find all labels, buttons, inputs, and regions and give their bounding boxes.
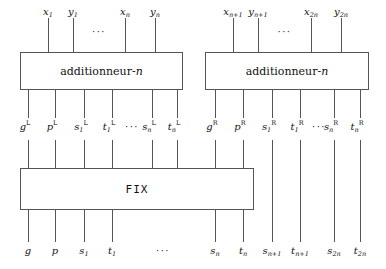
mid-wire-lower-left-1 [55,140,56,168]
circuit-diagram: x1y1xnyn···xn+1yn+1x2ny2n···additionneur… [0,0,386,269]
mid-label-left-3: t1L [103,121,116,132]
mid-wire-upper-right-1 [243,90,244,118]
adder-box-left-label: additionneur-n [60,65,143,78]
bypass-wire-right-3 [300,140,301,242]
input-label-left-2: xn [120,6,130,17]
mid-wire-upper-left-0 [28,90,29,118]
mid-wire-upper-right-4 [334,90,335,118]
input-label-right-3: y2n [334,6,348,17]
output-wire-3 [112,210,113,242]
output-wire-4 [215,210,216,242]
output-label-5: tn [239,245,247,256]
mid-wire-lower-right-1 [243,140,244,168]
mid-label-left-4: snL [142,121,156,132]
input-wire-left-1 [73,18,74,52]
input-label-left-3: yn [150,6,160,17]
ellipsis-top-left: ··· [92,26,106,37]
output-label-9: t2n [354,245,366,256]
input-wire-left-3 [155,18,156,52]
mid-wire-upper-left-1 [55,90,56,118]
input-label-right-2: x2n [304,6,318,17]
input-wire-right-0 [233,18,234,52]
output-wire-2 [84,210,85,242]
input-label-right-1: yn+1 [248,6,267,17]
output-wire-0 [28,210,29,242]
mid-wire-upper-left-4 [152,90,153,118]
input-wire-right-2 [311,18,312,52]
input-wire-left-2 [125,18,126,52]
output-label-7: tn+1 [291,245,309,256]
output-wire-1 [55,210,56,242]
mid-wire-upper-right-0 [215,90,216,118]
mid-label-left-5: tnL [168,121,181,132]
output-label-1: p [52,245,58,256]
ellipsis-mid-left: ··· [125,121,139,132]
mid-wire-upper-right-2 [272,90,273,118]
mid-label-right-0: gR [206,121,217,132]
mid-wire-lower-right-0 [215,140,216,168]
input-wire-left-0 [48,18,49,52]
ellipsis-mid-right: ··· [312,121,326,132]
output-label-4: sn [210,245,219,256]
input-label-left-0: x1 [43,6,53,17]
mid-label-left-0: gL [20,121,31,132]
bypass-wire-right-5 [360,140,361,242]
fix-box[interactable]: FIX [20,168,254,210]
output-label-2: s1 [79,245,88,256]
mid-wire-upper-left-3 [112,90,113,118]
output-label-8: s2n [327,245,340,256]
input-label-left-1: y1 [68,6,78,17]
adder-box-right-label: additionneur-n [246,65,329,78]
mid-label-right-5: tnR [350,121,363,132]
adder-box-right[interactable]: additionneur-n [205,52,369,90]
mid-wire-upper-right-3 [300,90,301,118]
output-label-0: g [25,245,31,256]
mid-wire-lower-left-5 [177,140,178,168]
bypass-wire-right-2 [272,140,273,242]
fix-box-label: FIX [126,183,149,196]
mid-wire-upper-left-5 [177,90,178,118]
mid-label-right-2: s1R [262,121,276,132]
mid-label-right-1: pR [234,121,245,132]
output-label-6: sn+1 [263,245,282,256]
input-label-right-0: xn+1 [223,6,242,17]
ellipsis-bottom: ··· [156,245,170,256]
mid-wire-lower-left-2 [84,140,85,168]
output-wire-5 [243,210,244,242]
bypass-wire-right-4 [334,140,335,242]
mid-wire-lower-left-3 [112,140,113,168]
mid-wire-upper-left-2 [84,90,85,118]
input-wire-right-1 [258,18,259,52]
mid-wire-upper-right-5 [360,90,361,118]
mid-label-right-3: t1R [290,121,303,132]
mid-label-left-1: pL [47,121,58,132]
mid-wire-lower-left-0 [28,140,29,168]
output-label-3: t1 [108,245,116,256]
adder-box-left[interactable]: additionneur-n [20,52,183,90]
mid-wire-lower-left-4 [152,140,153,168]
mid-label-left-2: s1L [74,121,88,132]
ellipsis-top-right: ··· [277,26,291,37]
input-wire-right-3 [341,18,342,52]
